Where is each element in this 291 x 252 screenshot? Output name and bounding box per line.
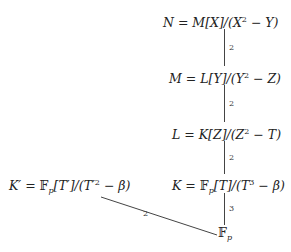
node-L: L = K[Z]/(Z2 − T)	[172, 125, 281, 142]
node-Fp: 𝔽p	[218, 226, 232, 245]
node-M: M = L[Y]/(Y2 − Z)	[169, 69, 281, 86]
degree-label-L-M: 2	[229, 99, 234, 108]
degree-label-Fp-Kprime: 2	[143, 209, 148, 218]
node-N: N = M[X]/(X2 − Y)	[163, 13, 278, 30]
node-Kprime: K′ = 𝔽p[T′]/(T′2 − β)	[9, 176, 130, 198]
degree-label-K-L: 2	[229, 153, 234, 162]
degree-label-M-N: 2	[229, 43, 234, 52]
edge-Fp-Kprime	[101, 197, 217, 235]
node-K: K = 𝔽p[T]/(T3 − β)	[172, 176, 285, 198]
degree-label-Fp-K: 3	[229, 204, 234, 213]
